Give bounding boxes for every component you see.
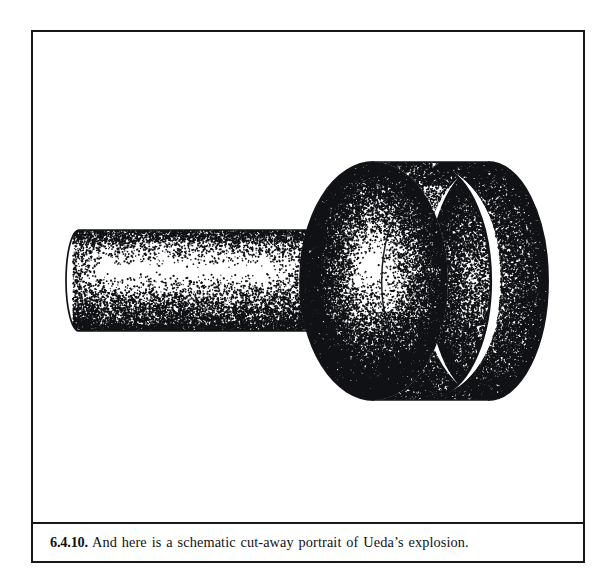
caption-text: 6.4.10. And here is a schematic cut-away… bbox=[50, 534, 469, 552]
cutaway-cylinder-illustration bbox=[33, 32, 583, 522]
illustration-plate bbox=[33, 32, 583, 522]
figure-caption: 6.4.10. And here is a schematic cut-away… bbox=[33, 524, 583, 561]
caption-number: 6.4.10. bbox=[50, 534, 88, 550]
shaft-group bbox=[66, 225, 326, 337]
figure-frame: 6.4.10. And here is a schematic cut-away… bbox=[31, 30, 585, 563]
illustration-artwork bbox=[66, 156, 549, 405]
figure-page: 6.4.10. And here is a schematic cut-away… bbox=[0, 0, 613, 588]
drum-group bbox=[294, 156, 550, 405]
caption-body: And here is a schematic cut-away portrai… bbox=[92, 534, 469, 550]
